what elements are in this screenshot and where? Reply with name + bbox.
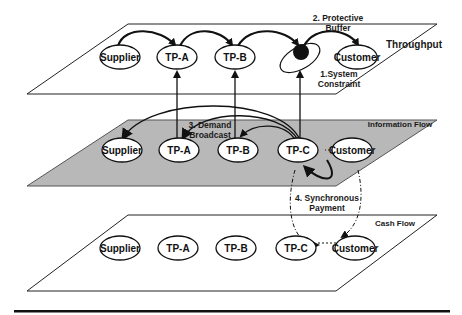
protective-buffer-label-2: Buffer [325, 23, 351, 33]
sync-payment-label-1: 4. Synchronous [295, 193, 359, 203]
information-flow-label: Information Flow [368, 120, 433, 129]
node-bot-tpc-label: TP-C [284, 243, 307, 254]
throughput-label: Throughput [386, 39, 443, 50]
node-mid-tpc-label: TP-C [286, 145, 309, 156]
supply-chain-diagram: Supplier TP-A TP-B Customer Supplier TP-… [0, 0, 462, 315]
node-top-supplier-label: Supplier [100, 52, 140, 63]
demand-broadcast-label-1: 3. Demand [189, 120, 232, 130]
node-top-tpa-label: TP-A [165, 52, 188, 63]
node-mid-customer-label: Customer [329, 145, 376, 156]
node-bot-tpa-label: TP-A [166, 243, 189, 254]
node-mid-tpa-label: TP-A [167, 145, 190, 156]
node-mid-tpb-label: TP-B [226, 145, 249, 156]
node-mid-supplier-label: Supplier [102, 145, 142, 156]
demand-broadcast-label-2: Broadcast [189, 130, 231, 140]
protective-buffer-label-1: 2. Protective [313, 13, 364, 23]
bottom-rule [14, 310, 450, 313]
node-top-customer-label: Customer [334, 52, 381, 63]
node-top-tpb-label: TP-B [223, 52, 246, 63]
system-constraint-label-1: 1.System [320, 69, 358, 79]
constraint-dot [293, 44, 309, 60]
node-bot-supplier-label: Supplier [100, 243, 140, 254]
system-constraint-label-2: Constraint [318, 79, 361, 89]
sync-payment-label-2: Payment [309, 203, 345, 213]
cash-flow-label: Cash Flow [375, 219, 416, 228]
node-bot-customer-label: Customer [332, 243, 379, 254]
node-bot-tpb-label: TP-B [224, 243, 247, 254]
